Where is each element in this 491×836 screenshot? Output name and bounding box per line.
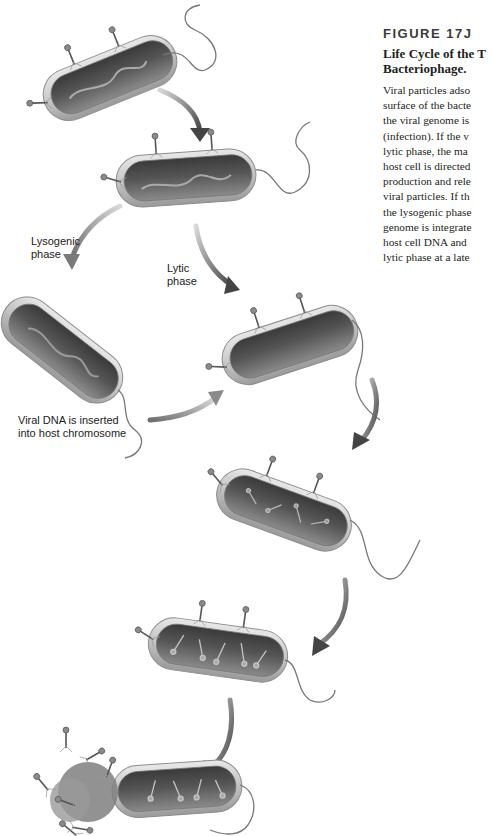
arrow-replication-to-assembly — [318, 580, 346, 645]
arrow-lytic-to-replication — [362, 380, 377, 440]
arrow-adsorption-to-injection — [160, 90, 200, 132]
stage-replication — [193, 436, 366, 558]
label-lysogenic-phase: Lysogenic phase — [31, 235, 80, 261]
figure-body-line: Viral particles adso — [383, 83, 491, 98]
stage-adsorption — [10, 8, 185, 135]
figure-body-line: (infection). If the v — [383, 129, 491, 144]
stage-injection — [96, 126, 257, 210]
stage-assembly — [128, 591, 294, 685]
stage-lytic-start — [191, 279, 365, 397]
figure-body-line: surface of the bacte — [383, 98, 491, 113]
arrow-lysogenic-to-lytic — [150, 398, 215, 420]
figure-body-line: lytic phase at a late — [383, 250, 491, 265]
label-line: into host chromosome — [18, 427, 126, 440]
figure-body-line: the lysogenic phase — [383, 205, 491, 220]
figure-body-line: host cell DNA and — [383, 235, 491, 250]
figure-body-line: host cell is directed — [383, 159, 491, 174]
stage-lysogenic — [0, 286, 133, 413]
label-viral-dna-inserted: Viral DNA is inserted into host chromoso… — [18, 414, 126, 440]
figure-title-line: Bacteriophage. — [383, 61, 491, 76]
figure-body-line: production and rele — [383, 174, 491, 189]
figure-body-line: the viral genome is — [383, 113, 491, 128]
label-line: Viral DNA is inserted — [18, 414, 126, 427]
figure-number: FIGURE 17J — [383, 26, 491, 41]
label-line: Lytic — [167, 262, 197, 275]
figure-body-line: genome is integrate — [383, 220, 491, 235]
arrow-lytic — [196, 226, 232, 285]
flagellum-5 — [350, 520, 420, 579]
flagellum-6 — [285, 660, 335, 702]
label-lytic-phase: Lytic phase — [167, 262, 197, 288]
label-line: phase — [31, 248, 80, 261]
label-line: phase — [167, 275, 197, 288]
label-line: Lysogenic — [31, 235, 80, 248]
figure-body: Viral particles adso surface of the bact… — [383, 83, 491, 265]
figure-body-line: viral particles. If th — [383, 189, 491, 204]
figure-title-line: Life Cycle of the T — [383, 46, 491, 61]
arrow-assembly-to-lysis — [210, 700, 232, 768]
stage-lysis — [30, 727, 243, 836]
flagellum-2 — [256, 122, 310, 193]
figure-body-line: lytic phase, the ma — [383, 144, 491, 159]
figure-caption: FIGURE 17J Life Cycle of the T Bacteriop… — [383, 26, 491, 265]
figure-title: Life Cycle of the T Bacteriophage. — [383, 46, 491, 76]
